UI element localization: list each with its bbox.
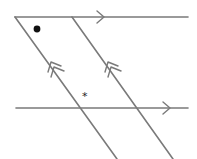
left-transversal-line [15,17,117,159]
dot-angle-marker [34,26,41,33]
star-angle-marker: * [82,91,88,102]
diagram-canvas [0,0,197,159]
right-transversal-line [72,17,173,159]
